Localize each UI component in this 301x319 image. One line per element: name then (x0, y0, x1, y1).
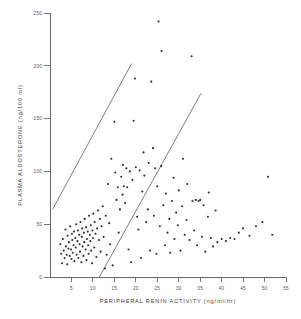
data-point (125, 167, 127, 169)
data-point (115, 199, 117, 201)
data-point (173, 177, 175, 179)
data-point (62, 238, 64, 240)
data-point (191, 200, 193, 202)
data-point (80, 261, 82, 263)
data-point (242, 227, 244, 229)
data-point (169, 252, 171, 254)
data-point (61, 262, 63, 264)
data-point (74, 237, 76, 239)
data-point (67, 247, 69, 249)
data-point (127, 248, 129, 250)
data-point (87, 231, 89, 233)
data-point (72, 252, 74, 254)
y-tick-label: 50 (36, 222, 42, 227)
data-point (70, 258, 72, 260)
data-point (173, 238, 175, 240)
data-point (73, 244, 75, 246)
data-point (75, 223, 77, 225)
x-axis-title: PERIPHERAL RENIN ACTIVITY (ng/ml/hr) (100, 298, 237, 304)
x-tick-label: 20 (133, 286, 139, 291)
data-point (188, 239, 190, 241)
data-point (154, 167, 156, 169)
x-tick-label: 15 (112, 286, 118, 291)
data-point (81, 236, 83, 238)
data-point (92, 237, 94, 239)
data-point (94, 221, 96, 223)
y-tick-label: 0 (39, 275, 42, 280)
data-point (105, 215, 107, 217)
data-point (85, 226, 87, 228)
data-point (79, 221, 81, 223)
data-point (208, 191, 210, 193)
data-point (70, 248, 72, 250)
data-point (158, 20, 160, 22)
data-point (136, 216, 138, 218)
data-point (155, 253, 157, 255)
data-point (195, 199, 197, 201)
data-point (114, 171, 116, 173)
data-point (91, 262, 93, 264)
data-point (181, 205, 183, 207)
data-point (87, 244, 89, 246)
data-point (171, 200, 173, 202)
data-point (199, 199, 201, 201)
data-point (79, 243, 81, 245)
data-point (145, 221, 147, 223)
data-point (175, 212, 177, 214)
data-point (76, 254, 78, 256)
data-point (108, 222, 110, 224)
data-point (64, 228, 66, 230)
data-point (66, 263, 68, 265)
data-point (85, 248, 87, 250)
data-point (191, 55, 193, 57)
data-point (137, 228, 139, 230)
plot-canvas: 050100150200250 510152025303540455055 PE… (0, 0, 301, 319)
x-tick-label: 5 (70, 286, 73, 291)
data-point (129, 170, 131, 172)
data-point (165, 193, 167, 195)
data-point (221, 238, 223, 240)
data-point (185, 219, 187, 221)
data-point (110, 158, 112, 160)
data-point (160, 165, 162, 167)
data-point (120, 176, 122, 178)
data-point (150, 81, 152, 83)
data-point (210, 237, 212, 239)
data-point (69, 225, 71, 227)
data-point (71, 239, 73, 241)
boundary-lines-group (53, 64, 201, 277)
data-point (140, 257, 142, 259)
data-point (96, 227, 98, 229)
data-point (212, 245, 214, 247)
data-point (82, 255, 84, 257)
data-point (106, 254, 108, 256)
data-point (83, 241, 85, 243)
x-axis-ticks: 510152025303540455055 (70, 277, 289, 291)
data-point (97, 209, 99, 211)
data-point (178, 189, 180, 191)
data-point (184, 234, 186, 236)
data-point (89, 240, 91, 242)
data-point (91, 229, 93, 231)
data-point (60, 253, 62, 255)
y-axis-title: PLASMA ALDOSTERONE (ng/100 ml) (17, 84, 23, 205)
data-point (90, 250, 92, 252)
data-point (79, 251, 81, 253)
y-tick-label: 200 (34, 64, 43, 69)
data-point (133, 120, 135, 122)
data-point (75, 246, 77, 248)
data-point (152, 147, 154, 149)
data-point (143, 175, 145, 177)
data-point (167, 232, 169, 234)
data-point (82, 245, 84, 247)
data-point (68, 241, 70, 243)
data-point (119, 208, 121, 210)
data-point (90, 224, 92, 226)
data-point (63, 250, 65, 252)
data-point (203, 204, 205, 206)
data-point (164, 244, 166, 246)
data-point (207, 216, 209, 218)
x-tick-label: 40 (219, 286, 225, 291)
data-point (159, 225, 161, 227)
data-point (83, 232, 85, 234)
